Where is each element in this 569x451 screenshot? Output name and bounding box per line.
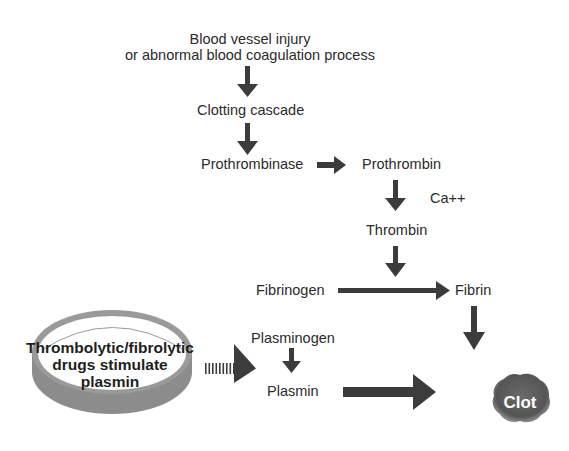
node-thrombin: Thrombin: [366, 223, 427, 238]
node-prothrombinase: Prothrombinase: [201, 157, 303, 172]
arrow-plasmin-to-clot: [343, 374, 436, 410]
title-line-2: or abnormal blood coagulation process: [110, 48, 390, 63]
drug-label: Thrombolytic/fibrolytic drugs stimulate …: [20, 339, 200, 390]
arrow-fibrinogen-to-fibrin: [338, 281, 450, 300]
arrow-drugs-to-plasminogen: [205, 344, 256, 383]
node-clot: Clot: [490, 393, 550, 413]
node-plasmin: Plasmin: [267, 384, 319, 399]
arrow-cascade-to-prothrombinase: [237, 123, 258, 155]
drug-label-line-3: plasmin: [20, 373, 200, 390]
node-clotting-cascade: Clotting cascade: [197, 103, 304, 118]
arrow-prothrombin-to-thrombin: [385, 180, 406, 211]
node-prothrombin: Prothrombin: [362, 157, 441, 172]
arrow-injury-to-cascade: [237, 66, 258, 97]
arrow-plasminogen-to-plasmin: [282, 348, 301, 373]
node-fibrinogen: Fibrinogen: [256, 283, 325, 298]
drug-label-line-2: drugs stimulate: [20, 356, 200, 373]
arrow-prothrombinase-to-prothrombin: [317, 156, 346, 174]
title-line-1: Blood vessel injury: [160, 32, 340, 47]
node-cofactor-ca: Ca++: [430, 191, 465, 206]
node-plasminogen: Plasminogen: [251, 331, 335, 346]
node-fibrin: Fibrin: [455, 283, 491, 298]
drug-label-line-1: Thrombolytic/fibrolytic: [20, 339, 200, 356]
arrow-fibrin-to-clot: [463, 306, 485, 350]
arrow-thrombin-to-conversion: [385, 246, 406, 277]
